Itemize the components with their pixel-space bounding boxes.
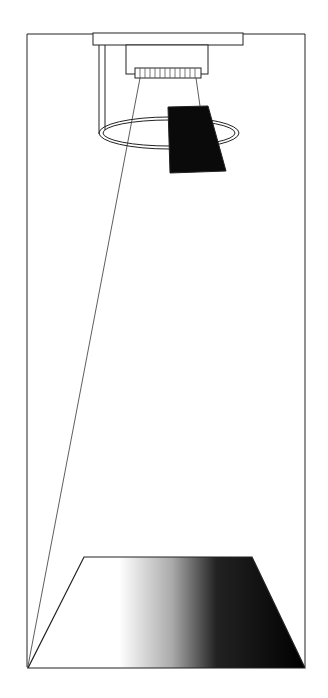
support-rods — [99, 45, 105, 134]
gradient-surface — [28, 557, 305, 668]
mounting-plate — [93, 33, 243, 45]
reflector-panel — [168, 106, 226, 173]
diagram-canvas — [0, 0, 328, 698]
lens-ring — [135, 68, 201, 78]
